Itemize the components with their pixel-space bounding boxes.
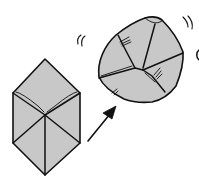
inflated-cube-outline [99, 17, 183, 102]
inflated-cube [99, 17, 183, 102]
motion-mark-right-edge [197, 50, 199, 60]
motion-mark-left-1 [78, 35, 81, 44]
motion-mark-left-2 [82, 36, 85, 46]
motion-mark-right-2 [188, 16, 192, 29]
origami-diagram [0, 0, 199, 176]
arrow-shaft [88, 114, 110, 141]
motion-mark-right-1 [183, 17, 188, 27]
arrow [88, 106, 116, 141]
flat-cube [13, 59, 80, 175]
arrow-head-icon [103, 106, 116, 119]
